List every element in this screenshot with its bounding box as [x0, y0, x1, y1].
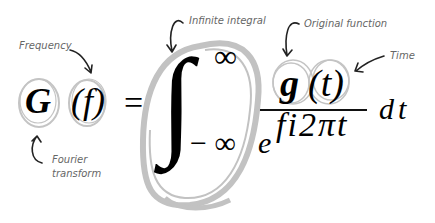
- formula-g: g: [280, 64, 299, 102]
- arrow-time-icon: [355, 56, 384, 72]
- arrow-fourier-icon: [32, 136, 42, 163]
- annotation-fourier-line2: transform: [52, 168, 101, 180]
- formula-equals: =: [124, 86, 143, 120]
- annotation-frequency: Frequency: [19, 40, 72, 52]
- formula-G: G: [25, 83, 51, 119]
- arrow-frequency-icon: [70, 50, 92, 73]
- annotation-fourier-line1: Fourier: [52, 154, 87, 166]
- annotation-infinite-integral: Infinite integral: [189, 15, 266, 27]
- formula-upper-limit: ∞: [214, 40, 237, 72]
- annotation-original-function: Original function: [304, 18, 387, 30]
- annotation-overlay: [0, 0, 435, 223]
- formula-t-arg: (t): [308, 64, 344, 102]
- formula-dt: dt: [379, 94, 410, 124]
- formula-exponent: fi2πt: [276, 108, 348, 142]
- arrow-original-icon: [283, 23, 299, 56]
- formula-lower-limit: − ∞: [190, 128, 236, 158]
- formula-e: e: [258, 128, 271, 158]
- formula-integral-sign: ∫: [160, 42, 193, 162]
- formula-f-arg: (f): [71, 83, 105, 119]
- annotation-time: Time: [390, 50, 415, 62]
